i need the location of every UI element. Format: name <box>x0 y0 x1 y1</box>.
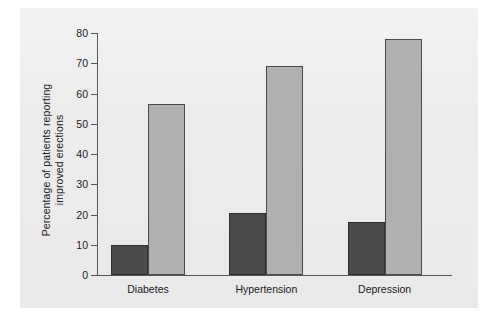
y-axis-tick-label: 20 <box>76 209 88 221</box>
y-axis-tick-mark <box>91 124 97 125</box>
y-axis-tick-mark <box>91 63 97 64</box>
plot-area: 01020304050607080 <box>97 33 452 275</box>
x-axis-baseline <box>97 275 452 276</box>
y-axis-tick-label: 40 <box>76 148 88 160</box>
y-axis-tick-label: 80 <box>76 27 88 39</box>
bar-hypertension-light-series <box>266 66 303 275</box>
x-axis-category-label: Hypertension <box>235 283 297 295</box>
y-axis-tick-label: 0 <box>82 269 88 281</box>
bar-depression-dark-series <box>348 222 385 275</box>
bar-depression-light-series <box>385 39 422 275</box>
y-axis-label-line1: Percentage of patients reporting <box>40 84 53 237</box>
y-axis-tick-mark <box>91 154 97 155</box>
y-axis-tick-label: 50 <box>76 118 88 130</box>
bar-diabetes-light-series <box>148 104 185 275</box>
y-axis-tick-mark <box>91 33 97 34</box>
y-axis-tick-label: 60 <box>76 88 88 100</box>
y-axis-tick-label: 70 <box>76 57 88 69</box>
x-axis-category-label: Diabetes <box>127 283 168 295</box>
y-axis-label: Percentage of patients reporting improve… <box>38 60 68 260</box>
y-axis-tick-label: 30 <box>76 178 88 190</box>
y-axis-tick-mark <box>91 245 97 246</box>
y-axis-tick-mark <box>91 184 97 185</box>
x-axis-category-label: Depression <box>358 283 411 295</box>
bar-diabetes-dark-series <box>111 245 148 275</box>
bar-chart-figure: Percentage of patients reporting improve… <box>0 0 494 317</box>
y-axis-tick-mark <box>91 275 97 276</box>
y-axis-label-line2: improved erections <box>53 115 66 206</box>
y-axis-tick-label: 10 <box>76 239 88 251</box>
bar-hypertension-dark-series <box>229 213 266 275</box>
y-axis-tick-mark <box>91 94 97 95</box>
y-axis-tick-mark <box>91 215 97 216</box>
